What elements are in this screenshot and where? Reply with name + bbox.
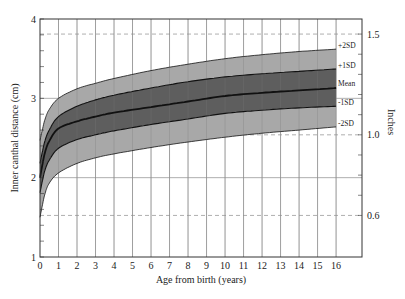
y2-tick-label: 1.0 — [367, 129, 380, 140]
y2-axis-title: Inches — [386, 109, 397, 135]
x-tick-label: 2 — [75, 260, 80, 271]
y2-tick-label: 1.5 — [367, 29, 380, 40]
y-tick-label: 3 — [31, 93, 36, 104]
x-tick-label: 7 — [167, 260, 172, 271]
x-tick-label: 9 — [204, 260, 209, 271]
x-tick-label: 5 — [130, 260, 135, 271]
band-label: +2SD — [338, 41, 356, 50]
x-tick-label: 15 — [313, 260, 323, 271]
sd-bands — [40, 19, 336, 257]
x-tick-label: 12 — [257, 260, 267, 271]
y-axis-title: Inner canthal distance (cm) — [9, 83, 21, 192]
x-tick-label: 3 — [93, 260, 98, 271]
band-label: -1SD — [338, 98, 354, 107]
x-tick-label: 8 — [186, 260, 191, 271]
x-tick-label: 4 — [112, 260, 117, 271]
x-tick-label: 13 — [276, 260, 286, 271]
y-tick-label: 4 — [31, 14, 36, 25]
band-label: +1SD — [338, 61, 356, 70]
x-tick-label: 11 — [239, 260, 249, 271]
x-tick-label: 6 — [149, 260, 154, 271]
growth-chart: 01234567891011121314151612340.61.01.5 +2… — [0, 0, 405, 299]
band-label: -2SD — [338, 119, 354, 128]
x-tick-label: 14 — [294, 260, 304, 271]
x-tick-label: 1 — [56, 260, 61, 271]
x-tick-label: 0 — [38, 260, 43, 271]
y-tick-label: 2 — [31, 172, 36, 183]
x-tick-label: 10 — [220, 260, 230, 271]
band-label: Mean — [338, 79, 355, 88]
y-tick-label: 1 — [31, 252, 36, 263]
band-labels: +2SD+1SDMean-1SD-2SD — [338, 41, 356, 128]
x-axis-title: Age from birth (years) — [156, 274, 246, 286]
x-tick-label: 16 — [331, 260, 341, 271]
y2-tick-label: 0.6 — [367, 210, 380, 221]
